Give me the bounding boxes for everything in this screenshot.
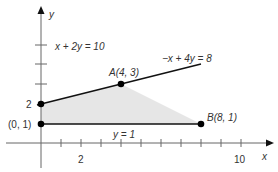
point-label-B: B(8, 1) (207, 112, 237, 123)
point-label-0-1: (0, 1) (8, 119, 31, 130)
y-axis-label: y (48, 9, 55, 20)
point-A (118, 81, 125, 88)
feasible-region-diagram: y x 2 10 2 (0, 1) A(4, 3) B(8, 1) x + 2y… (0, 0, 278, 172)
point-label-A: A(4, 3) (108, 67, 139, 78)
point-B (198, 121, 205, 128)
y-tick-label-2: 2 (26, 99, 32, 110)
equation-label-x-plus-2y: x + 2y = 10 (54, 41, 105, 52)
x-tick-label-10: 10 (234, 154, 246, 165)
feasible-region (41, 84, 201, 124)
equation-label-y-eq-1: y = 1 (112, 129, 135, 140)
x-axis-arrow-icon (266, 140, 274, 147)
x-tick-label-2: 2 (78, 154, 84, 165)
point-0-2 (38, 101, 45, 108)
y-axis-arrow-icon (38, 6, 45, 14)
x-axis-label: x (261, 151, 268, 162)
point-0-1 (38, 121, 45, 128)
equation-label-neg-x-plus-4y: −x + 4y = 8 (162, 53, 212, 64)
